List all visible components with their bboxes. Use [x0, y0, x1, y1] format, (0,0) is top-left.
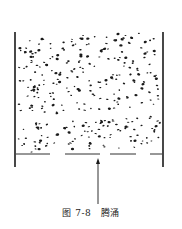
gas-inflow-arrow-icon: [96, 158, 100, 204]
fluidized-bed-vessel: [0, 0, 182, 229]
particle-layers: [18, 33, 162, 153]
figure-caption: 图 7-8 腾涌: [0, 206, 182, 219]
slugging-diagram: 图 7-8 腾涌: [0, 0, 182, 229]
caption-title: 腾涌: [101, 208, 120, 218]
caption-number: 图 7-8: [62, 208, 91, 218]
